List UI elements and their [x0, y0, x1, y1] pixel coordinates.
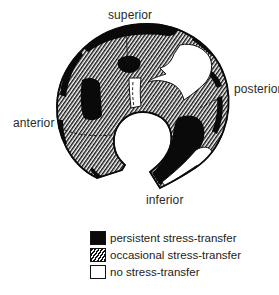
legend-item-persistent: persistent stress-transfer	[90, 230, 241, 246]
legend-label: no stress-transfer	[110, 266, 199, 278]
solid-swatch-icon	[90, 231, 106, 245]
stress-transfer-diagram: superior posterior anterior inferior per…	[0, 0, 279, 295]
legend-label: persistent stress-transfer	[110, 232, 237, 244]
legend-item-none: no stress-transfer	[90, 264, 241, 280]
label-anterior: anterior	[13, 116, 55, 130]
hatched-swatch-icon	[90, 248, 106, 262]
label-posterior: posterior	[234, 82, 279, 96]
label-inferior: inferior	[146, 193, 183, 207]
legend: persistent stress-transfer occasional st…	[90, 230, 241, 281]
empty-swatch-icon	[90, 265, 106, 279]
label-superior: superior	[108, 8, 152, 22]
legend-item-occasional: occasional stress-transfer	[90, 247, 241, 263]
legend-label: occasional stress-transfer	[110, 249, 241, 261]
